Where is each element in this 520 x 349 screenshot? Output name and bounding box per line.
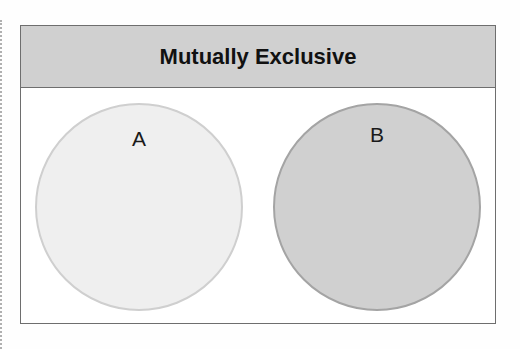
set-b-label: B: [370, 123, 384, 146]
set-a: A: [36, 104, 242, 310]
venn-circles: A B: [0, 0, 520, 349]
set-b: B: [274, 104, 480, 310]
set-a-label: A: [132, 127, 146, 150]
